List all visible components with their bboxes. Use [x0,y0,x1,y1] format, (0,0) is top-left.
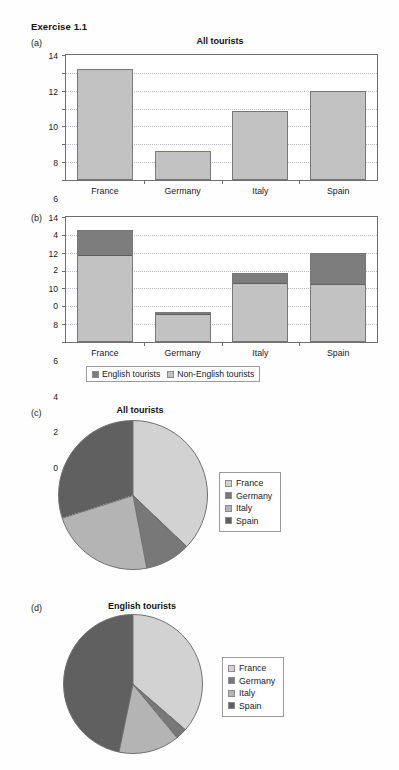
legend-stacked-item: English tourists [92,369,160,379]
y-axis-tick: 0 [62,342,66,343]
bar-spain [310,91,366,180]
y-axis-tick-label: 4 [53,392,58,402]
bar-segment-english [156,313,210,315]
bar-italy [232,111,288,180]
bar-spain [310,253,366,342]
legend-swatch-icon [225,517,232,524]
pie-slice-divider [133,422,134,496]
legend-swatch-icon [225,492,232,499]
y-axis-tick: 4 [62,144,66,145]
pie-slice-divider [133,616,134,685]
x-axis-tick [144,180,145,184]
bar-segment-non-english [311,285,365,341]
y-axis-tick: 2 [62,324,66,325]
pie-slice-divider [133,684,178,738]
bar-segment-english [233,274,287,284]
legend-pie-d-label: Spain [239,700,262,713]
chart-title-c: All tourists [70,405,210,415]
legend-pie-c-label: Germany [236,490,272,503]
y-axis-tick: 14 [62,55,66,56]
bar-chart-all-tourists: 02468101214FranceGermanyItalySpain [65,54,378,181]
plot-area-a: 02468101214FranceGermanyItalySpain [65,54,378,181]
legend-pie-c: FranceGermanyItalySpain [219,472,281,532]
bar-segment-english [311,254,365,285]
pie-slice-divider [119,684,134,752]
legend-swatch-icon [225,505,232,512]
bar-italy [232,273,288,342]
legend-pie-d-item: France [228,662,275,675]
legend-swatch-icon [228,677,235,684]
y-axis-tick-label: 10 [48,284,58,294]
bar-segment-non-english [233,284,287,341]
panel-label-d: (d) [31,603,42,613]
legend-pie-c-item: Italy [225,502,272,515]
legend-pie-d-label: Italy [239,687,255,700]
legend-swatch-icon [228,702,235,709]
x-axis-label-spain: Spain [327,186,350,196]
legend-swatch-icon [225,480,232,487]
legend-pie-d: FranceGermanyItalySpain [222,657,284,717]
y-axis-tick-label: 12 [48,249,58,259]
x-axis-label-italy: Italy [252,348,268,358]
legend-stacked-item: Non-English tourists [167,369,254,379]
plot-area-b: 02468101214FranceGermanyItalySpain [65,216,378,343]
y-axis-tick-label: 14 [48,51,58,61]
y-axis-tick-label: 8 [53,158,58,168]
y-axis-tick-label: 14 [48,213,58,223]
bar-segment-non-english [78,256,132,341]
legend-pie-d-item: Germany [228,675,275,688]
pie-slices-c [58,420,208,570]
bar-germany [155,312,211,342]
y-axis-tick-label: 12 [48,87,58,97]
x-axis-label-germany: Germany [165,186,201,196]
bar-germany [155,151,211,180]
legend-pie-c-label: Italy [236,502,252,515]
x-axis-tick [299,180,300,184]
pie-slice-divider [133,684,186,730]
legend-stacked: English touristsNon-English tourists [86,366,260,382]
y-axis-tick: 6 [62,288,66,289]
panel-label-a: (a) [31,38,42,48]
legend-stacked-label: Non-English tourists [177,369,254,379]
x-axis-tick [222,180,223,184]
pie-slice-divider [62,495,133,519]
x-axis-label-france: France [91,348,118,358]
y-axis-tick: 8 [62,109,66,110]
y-axis-tick: 4 [62,306,66,307]
page-title: Exercise 1.1 [31,21,87,32]
y-axis-tick: 12 [62,235,66,236]
chart-title-d: English tourists [62,601,222,611]
y-axis-tick-label: 10 [48,122,58,132]
y-axis-tick: 10 [62,91,66,92]
x-axis-label-germany: Germany [165,348,201,358]
legend-swatch-icon [92,371,99,378]
y-axis-tick-label: 4 [53,230,58,240]
legend-swatch-icon [228,665,235,672]
y-axis-tick-label: 2 [53,265,58,275]
pie-chart-english-tourists [63,614,203,754]
pie-slices-d [63,614,203,754]
legend-swatch-icon [228,690,235,697]
legend-pie-d-label: Germany [239,675,275,688]
y-axis-tick: 10 [62,253,66,254]
bar-france [77,230,133,342]
pie-chart-all-tourists [58,420,208,570]
legend-pie-d-item: Italy [228,687,275,700]
legend-pie-c-item: France [225,477,272,490]
legend-pie-c-label: France [236,477,263,490]
y-axis-tick: 12 [62,73,66,74]
bar-chart-stacked-tourists: 02468101214FranceGermanyItalySpain [65,216,378,343]
y-axis-tick-label: 6 [53,194,58,204]
y-axis-tick: 6 [62,126,66,127]
bar-france [77,69,133,180]
legend-pie-d-item: Spain [228,700,275,713]
y-axis-tick: 8 [62,271,66,272]
legend-stacked-label: English tourists [102,369,160,379]
y-axis-tick-label: 8 [53,320,58,330]
y-axis-tick-label: 0 [53,301,58,311]
y-axis-tick: 14 [62,217,66,218]
legend-pie-c-item: Spain [225,515,272,528]
x-axis-label-italy: Italy [252,186,268,196]
x-axis-tick [144,342,145,346]
legend-swatch-icon [167,371,174,378]
